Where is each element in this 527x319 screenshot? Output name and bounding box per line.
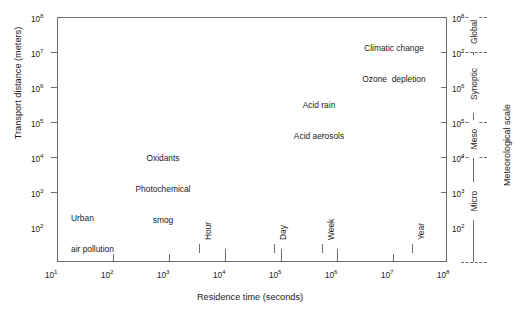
- x-tick-label-1e6: 106: [325, 268, 338, 280]
- y-tick-right-1e4: [441, 157, 447, 158]
- x-tick-1e4: [225, 249, 226, 261]
- time-marker-label-day: Day: [278, 225, 288, 240]
- time-marker-tick-day: [274, 244, 275, 253]
- annotation-line: Urban: [71, 213, 114, 223]
- y-tick-label-right-1e6: 106: [452, 82, 465, 94]
- x-axis-title: Residence time (seconds): [150, 292, 350, 302]
- x-tick-1e6: [337, 249, 338, 261]
- y-tick-1e4: [51, 157, 57, 158]
- x-tick-1e7: [393, 254, 394, 261]
- meteorological-boundary-1e7: [461, 52, 487, 53]
- time-marker-tick-week: [322, 244, 323, 253]
- x-tick-label-1e3: 103: [157, 268, 170, 280]
- annotation-urban-air-pollution: Urban air pollution: [71, 192, 114, 275]
- y-tick-1e7: [51, 52, 57, 53]
- y-tick-label-1e7: 107: [31, 47, 44, 59]
- annotation-line: smog: [126, 215, 200, 225]
- y-tick-right-1e5: [441, 122, 447, 123]
- y-tick-1e6: [51, 87, 57, 88]
- annotation-photochemical-smog: Oxidants Photochemical smog: [126, 132, 200, 246]
- y-tick-label-1e6: 106: [31, 82, 44, 94]
- x-tick-1e3: [169, 254, 170, 261]
- meteorological-band-label-micro: Micro: [469, 182, 479, 220]
- time-marker-label-hour: Hour: [203, 222, 213, 240]
- annotation-line: Oxidants: [126, 153, 200, 163]
- annotation-line: air pollution: [71, 244, 114, 254]
- y-tick-label-1e5: 105: [31, 117, 44, 129]
- figure-residence-time-vs-transport-distance: Transport distance (meters) 108 107 106 …: [0, 0, 527, 319]
- y-tick-right-1e3: [441, 192, 447, 193]
- x-tick-label-1e7: 107: [381, 268, 394, 280]
- y-tick-1e3: [51, 192, 57, 193]
- x-tick-label-1e8: 108: [437, 268, 450, 280]
- annotation-line: Ozone depletion: [346, 74, 442, 84]
- x-tick-1e5: [281, 249, 282, 261]
- meteorological-band-label-synoptic: Synoptic: [469, 55, 479, 113]
- meteorological-band-label-global: Global: [469, 12, 479, 52]
- y-tick-label-1e4: 104: [31, 152, 44, 164]
- y-tick-label-right-1e2: 102: [452, 222, 465, 234]
- y-tick-label-right-1e3: 103: [452, 187, 465, 199]
- x-tick-label-1e4: 104: [213, 268, 226, 280]
- y-tick-label-1e3: 103: [31, 187, 44, 199]
- y-tick-label-1e2: 102: [31, 222, 44, 234]
- time-marker-tick-year: [412, 244, 413, 253]
- annotation-climatic-change: Climatic change Ozone depletion: [346, 22, 442, 105]
- annotation-line: Photochemical: [126, 184, 200, 194]
- y-tick-1e5: [51, 122, 57, 123]
- annotation-line: Acid aerosols: [278, 131, 360, 141]
- meteorological-band-label-meso: Meso: [469, 120, 479, 158]
- time-marker-label-year: Year: [416, 223, 426, 240]
- y-axis-title: Transport distance (meters): [13, 23, 23, 143]
- y-tick-label-1e8: 108: [31, 12, 44, 24]
- x-tick-label-1e5: 105: [269, 268, 282, 280]
- meteorological-scale-title: Meteorological scale: [502, 87, 512, 203]
- meteorological-boundary-1e2: [461, 262, 487, 263]
- x-tick-label-1e1: 101: [45, 268, 58, 280]
- time-marker-label-week: Week: [326, 219, 336, 240]
- annotation-line: Climatic change: [346, 43, 442, 53]
